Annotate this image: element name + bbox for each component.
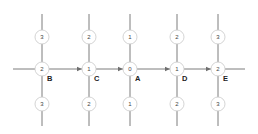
nodes-layer: 321232101232123 <box>35 30 225 111</box>
node-label-A: A <box>135 74 141 83</box>
labels-layer: BCADE <box>47 74 228 83</box>
node-bottom-1: 2 <box>82 97 96 111</box>
node-bottom-2: 1 <box>123 97 137 111</box>
node-bottom-4: 3 <box>211 97 225 111</box>
node-top-3: 2 <box>170 30 184 44</box>
node-bottom-3: 2 <box>170 97 184 111</box>
node-label-E: E <box>223 74 228 83</box>
node-top-0: 3 <box>35 30 49 44</box>
node-label-D: D <box>182 74 188 83</box>
node-top-4: 3 <box>211 30 225 44</box>
node-top-2: 1 <box>123 30 137 44</box>
node-top-1: 2 <box>82 30 96 44</box>
grid-diagram: 321232101232123 BCADE <box>0 0 258 134</box>
node-label-B: B <box>47 74 53 83</box>
node-bottom-0: 3 <box>35 97 49 111</box>
node-label-C: C <box>94 74 100 83</box>
